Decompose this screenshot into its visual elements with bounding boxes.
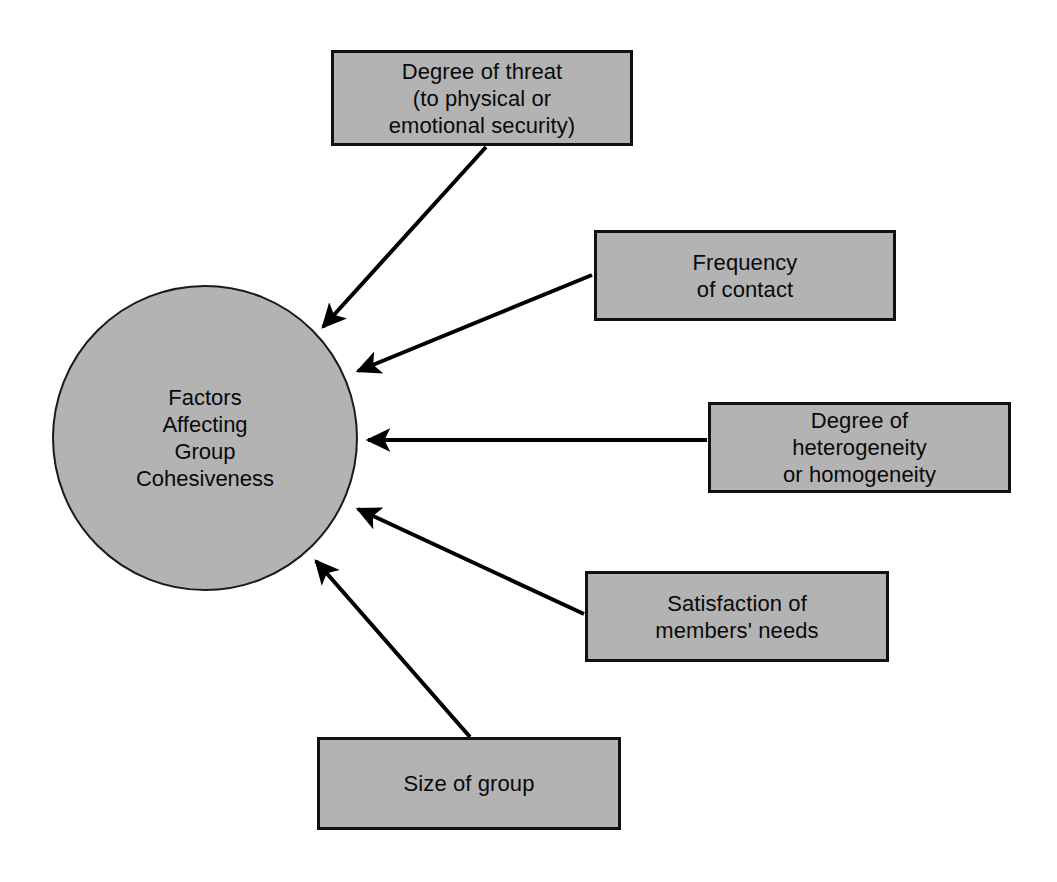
node-degree-of-threat: Degree of threat (to physical or emotion…	[331, 50, 633, 146]
node-satisfaction-of-members-needs-label: Satisfaction of members' needs	[655, 590, 818, 644]
node-size-of-group-label: Size of group	[404, 770, 535, 797]
node-frequency-of-contact: Frequency of contact	[594, 230, 896, 321]
node-degree-of-heterogeneity: Degree of heterogeneity or homogeneity	[708, 402, 1011, 493]
arrow-frequency-to-hub	[358, 275, 592, 371]
hub-node-group-cohesiveness: Factors Affecting Group Cohesiveness	[52, 285, 358, 591]
node-satisfaction-of-members-needs: Satisfaction of members' needs	[585, 571, 889, 662]
diagram-canvas: Factors Affecting Group Cohesiveness Deg…	[0, 0, 1057, 882]
arrow-size-to-hub	[316, 561, 470, 737]
node-degree-of-threat-label: Degree of threat (to physical or emotion…	[389, 58, 576, 139]
node-size-of-group: Size of group	[317, 737, 621, 830]
arrow-threat-to-hub	[323, 147, 486, 327]
node-degree-of-heterogeneity-label: Degree of heterogeneity or homogeneity	[783, 407, 936, 488]
hub-node-label: Factors Affecting Group Cohesiveness	[136, 384, 274, 492]
arrow-satisfaction-to-hub	[358, 509, 584, 614]
node-frequency-of-contact-label: Frequency of contact	[693, 249, 798, 303]
